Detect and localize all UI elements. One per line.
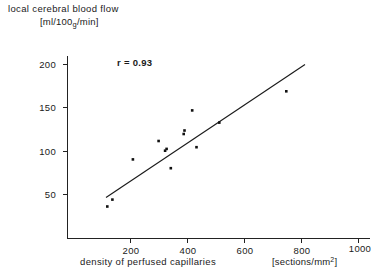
data-point bbox=[183, 129, 186, 132]
data-point bbox=[182, 133, 185, 136]
x-tick-label-1000: 1000 bbox=[349, 243, 371, 254]
data-point bbox=[111, 198, 114, 201]
scatter-plot-figure: local cerebral blood flow [ml/100g/min] bbox=[0, 0, 378, 271]
data-point bbox=[191, 109, 194, 112]
x-axis-units: [sections/mm2] bbox=[272, 256, 337, 267]
data-point bbox=[170, 167, 173, 170]
data-point bbox=[106, 205, 109, 208]
data-point bbox=[132, 158, 135, 161]
x-tick-label-200: 200 bbox=[123, 245, 140, 256]
data-point bbox=[195, 146, 198, 149]
data-point bbox=[157, 140, 160, 143]
x-axis-title: density of perfused capillaries bbox=[80, 256, 216, 267]
plot-canvas bbox=[0, 0, 378, 271]
y-tick-label-100: 100 bbox=[22, 146, 56, 157]
x-tick-label-800: 800 bbox=[294, 245, 311, 256]
data-point bbox=[218, 121, 221, 124]
data-point bbox=[165, 148, 168, 151]
y-tick-label-200: 200 bbox=[22, 59, 56, 70]
data-point bbox=[285, 90, 288, 93]
x-tick-label-600: 600 bbox=[237, 245, 254, 256]
correlation-annotation: r = 0.93 bbox=[117, 57, 152, 68]
regression-line bbox=[106, 65, 305, 198]
x-tick-label-400: 400 bbox=[180, 245, 197, 256]
y-tick-label-150: 150 bbox=[22, 102, 56, 113]
y-tick-label-50: 50 bbox=[22, 189, 56, 200]
